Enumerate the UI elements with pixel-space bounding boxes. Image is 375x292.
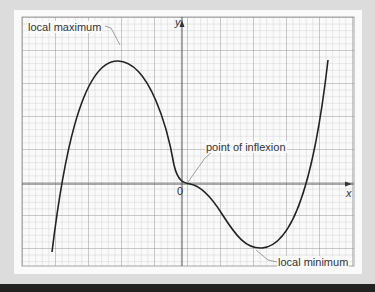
graph-canvas — [0, 0, 375, 292]
label-x-axis: x — [346, 188, 352, 199]
bottom-bar — [0, 284, 375, 292]
label-local-minimum: local minimum — [277, 256, 349, 268]
grid — [22, 17, 354, 266]
label-local-maximum: local maximum — [27, 21, 102, 33]
label-point-of-inflexion: point of inflexion — [205, 141, 287, 153]
label-y-axis: y — [175, 17, 181, 28]
label-origin: 0 — [176, 185, 184, 197]
